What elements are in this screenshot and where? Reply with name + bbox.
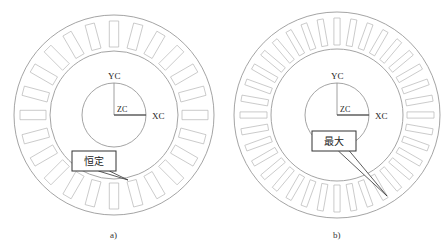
slot — [240, 112, 267, 118]
stator-diagram-canvas: YCZCXC恒定a)YCZCXC最大b) — [0, 0, 446, 250]
slot — [396, 147, 422, 166]
slot — [405, 95, 433, 106]
slot — [317, 183, 328, 211]
slot — [286, 30, 305, 56]
figure-caption-b: b) — [333, 230, 341, 240]
slot — [44, 160, 69, 185]
slot — [334, 18, 340, 45]
slot — [144, 172, 165, 199]
slot — [159, 160, 184, 185]
zc-label: ZC — [340, 105, 350, 114]
slot — [179, 128, 207, 144]
slot — [30, 64, 57, 85]
xc-label: XC — [375, 111, 388, 121]
slot — [85, 180, 101, 208]
slot — [44, 45, 69, 70]
slot — [407, 112, 434, 118]
stator-figure-b: YCZCXC最大b) — [234, 12, 440, 240]
slot — [402, 79, 430, 94]
slot — [317, 19, 328, 47]
callout-b: 最大 — [312, 131, 387, 196]
slot — [358, 180, 373, 208]
figure-caption-a: a) — [110, 230, 117, 240]
slot — [182, 110, 208, 119]
zc-label: ZC — [117, 105, 127, 114]
slot — [252, 147, 278, 166]
slot — [20, 110, 46, 119]
slot — [171, 145, 198, 166]
slot — [127, 180, 143, 208]
slot — [63, 31, 84, 58]
slot — [334, 185, 340, 212]
stator-figure-a: YCZCXC恒定a) — [14, 15, 214, 240]
slot — [358, 23, 373, 51]
slot — [252, 64, 278, 83]
slot — [109, 183, 118, 209]
slot — [346, 19, 357, 47]
slot — [241, 124, 269, 135]
slot — [22, 128, 50, 144]
slot — [405, 124, 433, 135]
slot — [85, 23, 101, 51]
slot — [30, 145, 57, 166]
slot — [144, 31, 165, 58]
slot — [396, 64, 422, 83]
xc-label: XC — [152, 111, 165, 121]
slot — [245, 136, 272, 151]
slot — [109, 21, 118, 47]
slot — [402, 136, 430, 151]
yc-label: YC — [331, 71, 344, 81]
callout-pointer — [338, 151, 387, 196]
slot — [369, 30, 388, 56]
yc-label: YC — [108, 71, 121, 81]
slot — [22, 86, 50, 102]
slot — [63, 172, 84, 199]
callout-text: 最大 — [324, 135, 344, 147]
slot — [301, 180, 316, 208]
slot — [179, 86, 207, 102]
slot — [127, 23, 143, 51]
slot — [301, 23, 316, 51]
slot — [171, 64, 198, 85]
slot — [159, 45, 184, 70]
slot — [241, 95, 269, 106]
slot — [245, 79, 272, 94]
slot — [286, 174, 305, 200]
callout-text: 恒定 — [84, 155, 104, 167]
slot — [346, 183, 357, 211]
callout-a: 恒定 — [72, 151, 128, 180]
